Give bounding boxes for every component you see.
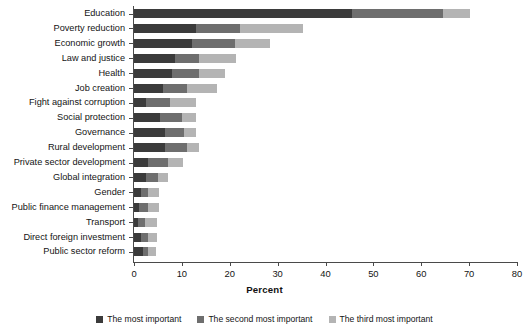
x-axis-title: Percent xyxy=(0,284,529,295)
y-axis-tick xyxy=(129,118,133,119)
y-axis-tick xyxy=(129,73,133,74)
y-axis-tick xyxy=(129,14,133,15)
bar-segment xyxy=(165,128,184,137)
category-label: Rural development xyxy=(48,142,125,152)
bar-segment xyxy=(134,247,143,256)
y-axis-tick xyxy=(129,192,133,193)
category-label: Economic growth xyxy=(55,38,125,48)
bar-segment xyxy=(134,158,148,167)
bar-segment xyxy=(184,128,196,137)
category-label: Poverty reduction xyxy=(54,23,126,33)
bar-segment xyxy=(168,158,183,167)
legend-swatch-icon xyxy=(96,316,103,323)
legend-swatch-icon xyxy=(329,316,336,323)
category-label: Education xyxy=(84,8,125,18)
bar-segment xyxy=(148,188,159,197)
bar-segment xyxy=(443,9,470,18)
bar-segment xyxy=(141,188,148,197)
category-label: Public finance management xyxy=(12,202,125,212)
bar-segment xyxy=(134,84,163,93)
bar-segment xyxy=(139,203,149,212)
y-axis-tick xyxy=(129,177,133,178)
bar-segment xyxy=(175,54,199,63)
bar-segment xyxy=(199,54,236,63)
x-axis-tick-label: 30 xyxy=(263,268,293,279)
category-label: Direct foreign investment xyxy=(23,232,125,242)
x-axis-tick-label: 40 xyxy=(311,268,341,279)
category-axis-labels: EducationPoverty reductionEconomic growt… xyxy=(0,6,130,261)
category-label: Transport xyxy=(86,217,125,227)
x-axis-tick xyxy=(134,262,135,266)
x-axis-tick xyxy=(278,262,279,266)
y-axis-tick xyxy=(129,222,133,223)
bar-segment xyxy=(158,173,168,182)
bar-segment xyxy=(134,143,165,152)
category-label: Private sector development xyxy=(14,157,125,167)
bar-segment xyxy=(146,98,170,107)
bar-segment xyxy=(187,84,217,93)
x-axis-tick-label: 20 xyxy=(215,268,245,279)
x-axis-tick xyxy=(230,262,231,266)
category-label: Job creation xyxy=(75,83,125,93)
bar-segment xyxy=(170,98,196,107)
legend-item[interactable]: The third most important xyxy=(329,314,433,324)
bar-segment xyxy=(240,24,302,33)
category-label: Social protection xyxy=(57,112,125,122)
x-axis-tick xyxy=(517,262,518,266)
x-axis-tick xyxy=(182,262,183,266)
bar-segment xyxy=(138,218,145,227)
legend-item[interactable]: The second most important xyxy=(197,314,312,324)
bar-segment xyxy=(148,247,156,256)
y-axis-tick xyxy=(129,252,133,253)
x-axis-tick xyxy=(326,262,327,266)
bar-segment xyxy=(134,113,160,122)
y-axis-tick xyxy=(129,43,133,44)
legend-item[interactable]: The most important xyxy=(96,314,181,324)
x-axis-tick-label: 10 xyxy=(167,268,197,279)
y-axis-tick xyxy=(129,207,133,208)
category-label: Health xyxy=(98,68,125,78)
x-axis-tick-label: 60 xyxy=(406,268,436,279)
bar-segment xyxy=(134,233,141,242)
bar-segment xyxy=(141,233,148,242)
bar-segment xyxy=(165,143,187,152)
category-label: Public sector reform xyxy=(43,246,125,256)
plot-area xyxy=(134,6,517,261)
bar-segment xyxy=(134,128,165,137)
bar-segment xyxy=(172,69,198,78)
bar-segment xyxy=(192,39,234,48)
legend-label: The most important xyxy=(107,314,181,324)
x-axis-tick-label: 0 xyxy=(119,268,149,279)
bar-chart: EducationPoverty reductionEconomic growt… xyxy=(0,0,529,336)
x-axis-tick xyxy=(469,262,470,266)
bar-segment xyxy=(148,158,167,167)
y-axis-tick xyxy=(129,103,133,104)
legend-label: The second most important xyxy=(208,314,312,324)
y-axis-tick xyxy=(129,88,133,89)
y-axis-tick xyxy=(129,28,133,29)
x-axis-tick xyxy=(373,262,374,266)
x-axis-tick-label: 70 xyxy=(454,268,484,279)
bar-segment xyxy=(134,9,352,18)
category-label: Global integration xyxy=(53,172,125,182)
legend-swatch-icon xyxy=(197,316,204,323)
category-label: Fight against corruption xyxy=(29,97,125,107)
bar-segment xyxy=(199,69,225,78)
bar-segment xyxy=(235,39,270,48)
legend-divider xyxy=(0,306,529,307)
y-axis-line xyxy=(133,6,134,262)
bar-segment xyxy=(148,203,159,212)
bar-segment xyxy=(145,218,157,227)
x-axis-tick-label: 80 xyxy=(502,268,529,279)
bar-segment xyxy=(134,188,141,197)
y-axis-tick xyxy=(129,237,133,238)
y-axis-tick xyxy=(129,133,133,134)
bar-segment xyxy=(352,9,443,18)
category-label: Gender xyxy=(94,187,125,197)
bar-segment xyxy=(134,98,146,107)
x-axis-tick-label: 50 xyxy=(358,268,388,279)
x-axis-tick xyxy=(421,262,422,266)
bar-segment xyxy=(134,24,196,33)
bar-segment xyxy=(134,173,146,182)
bar-segment xyxy=(196,24,240,33)
